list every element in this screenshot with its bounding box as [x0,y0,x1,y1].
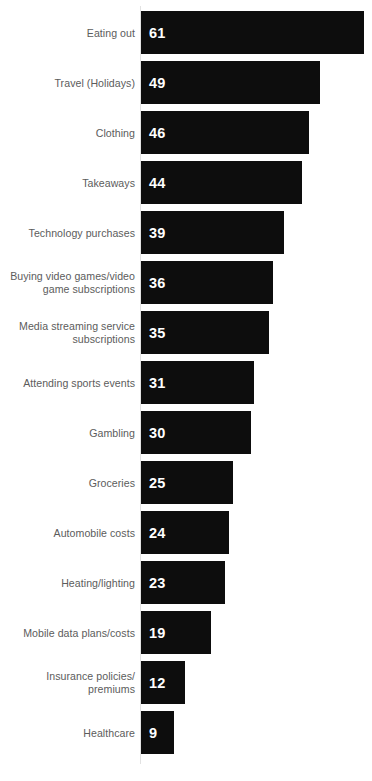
bar[interactable]: 23 [141,561,225,604]
bar-value-label: 9 [149,725,157,741]
bar-row: Groceries 25 [0,461,372,504]
category-label: Travel (Holidays) [0,76,135,89]
bar-value-label: 19 [149,625,166,641]
bar-row: Clothing 46 [0,111,372,154]
bar-row: Media streaming service subscriptions 35 [0,311,372,354]
bar[interactable]: 39 [141,211,284,254]
category-label: Eating out [0,26,135,39]
bar-row: Gambling 30 [0,411,372,454]
bar-value-label: 44 [149,175,166,191]
bar[interactable]: 25 [141,461,233,504]
bar-row: Healthcare 9 [0,711,372,754]
category-label: Heating/lighting [0,576,135,589]
bar-value-label: 24 [149,525,166,541]
bar[interactable]: 36 [141,261,273,304]
category-label: Groceries [0,476,135,489]
bar[interactable]: 30 [141,411,251,454]
bar-row: Eating out 61 [0,11,372,54]
bar-value-label: 31 [149,375,166,391]
bar-row: Takeaways 44 [0,161,372,204]
bar[interactable]: 24 [141,511,229,554]
category-label: Insurance policies/ premiums [0,670,135,696]
bar[interactable]: 49 [141,61,320,104]
bar-chart: Eating out 61 Travel (Holidays) 49 Cloth… [0,0,372,781]
bar-row: Travel (Holidays) 49 [0,61,372,104]
bar[interactable]: 12 [141,661,185,704]
category-label: Media streaming service subscriptions [0,320,135,346]
bar-row: Buying video games/video game subscripti… [0,261,372,304]
bar-value-label: 25 [149,475,166,491]
category-label: Automobile costs [0,526,135,539]
category-label: Gambling [0,426,135,439]
bar[interactable]: 46 [141,111,309,154]
bar[interactable]: 61 [141,11,364,54]
bar-row: Heating/lighting 23 [0,561,372,604]
category-label: Mobile data plans/costs [0,626,135,639]
bar-value-label: 12 [149,675,166,691]
bar[interactable]: 31 [141,361,254,404]
bar-row: Attending sports events 31 [0,361,372,404]
bar-value-label: 49 [149,75,166,91]
bar-value-label: 46 [149,125,166,141]
bar-value-label: 23 [149,575,166,591]
category-label: Buying video games/video game subscripti… [0,270,135,296]
bar-value-label: 30 [149,425,166,441]
category-label: Attending sports events [0,376,135,389]
bar[interactable]: 19 [141,611,211,654]
bar-row: Insurance policies/ premiums 12 [0,661,372,704]
category-label: Takeaways [0,176,135,189]
bar-value-label: 39 [149,225,166,241]
bar-row: Technology purchases 39 [0,211,372,254]
bar[interactable]: 44 [141,161,302,204]
category-label: Clothing [0,126,135,139]
bar[interactable]: 9 [141,711,174,754]
bar[interactable]: 35 [141,311,269,354]
category-label: Healthcare [0,726,135,739]
bar-value-label: 61 [149,25,166,41]
bar-row: Mobile data plans/costs 19 [0,611,372,654]
bar-row: Automobile costs 24 [0,511,372,554]
category-label: Technology purchases [0,226,135,239]
bar-value-label: 36 [149,275,166,291]
bar-value-label: 35 [149,325,166,341]
